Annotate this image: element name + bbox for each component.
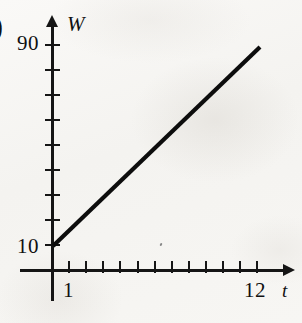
y-axis-tick-label-90: 90 xyxy=(17,33,39,54)
x-axis-tick-label-12: 12 xyxy=(244,280,266,301)
figure-canvas: ) W t xyxy=(0,0,302,323)
y-axis-tick-label-10: 10 xyxy=(17,236,39,257)
y-axis-label: W xyxy=(67,14,85,35)
plot-area: ) W t xyxy=(0,0,302,323)
data-series-line xyxy=(0,0,302,323)
x-axis-label: t xyxy=(282,281,288,300)
x-axis-tick-label-1: 1 xyxy=(63,280,74,301)
